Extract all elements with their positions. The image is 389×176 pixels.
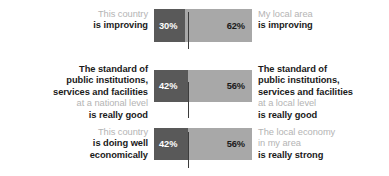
label-line: economically [0,150,148,161]
bar-center-divider [188,12,189,49]
bar-value-left: 30% [159,21,177,31]
label-line: My local area [258,9,389,20]
chart-row: This country is doing well economically … [0,118,389,176]
bar-value-right: 56% [227,81,245,91]
row-right-label: My local area is improving [258,9,389,32]
bar-value-left: 42% [159,139,177,149]
label-line: The local economy [258,127,389,138]
label-line: The standard of [258,64,389,75]
label-line: The standard of [0,64,148,75]
bar-center-divider [188,132,189,168]
label-line: at a local level [258,98,389,109]
diverging-bar: 30% 62% [154,9,252,42]
label-line: services and facilities [258,87,389,98]
label-line: is improving [0,20,148,31]
bar-value-right: 56% [227,139,245,149]
row-left-label: The standard of public institutions, ser… [0,64,148,121]
label-line: at a national level [0,98,148,109]
label-line: is really strong [258,150,389,161]
label-line: public institutions, [0,75,148,86]
label-line: is doing well [0,138,148,149]
row-right-label: The standard of public institutions, ser… [258,64,389,121]
label-line: in my area [258,138,389,149]
row-left-label: This country is doing well economically [0,127,148,161]
label-line: services and facilities [0,87,148,98]
bar-value-right: 62% [227,21,245,31]
diverging-bar: 42% 56% [154,128,252,160]
chart-row: The standard of public institutions, ser… [0,52,389,118]
label-line: This country [0,9,148,20]
chart-canvas: This country is improving 30% 62% My loc… [0,0,389,176]
label-line: This country [0,127,148,138]
bar-value-left: 42% [159,81,177,91]
bar-center-divider [188,82,189,118]
label-line: public institutions, [258,75,389,86]
row-left-label: This country is improving [0,9,148,32]
row-right-label: The local economy in my area is really s… [258,127,389,161]
diverging-bar: 42% 56% [154,70,252,102]
chart-row: This country is improving 30% 62% My loc… [0,0,389,52]
label-line: is improving [258,20,389,31]
